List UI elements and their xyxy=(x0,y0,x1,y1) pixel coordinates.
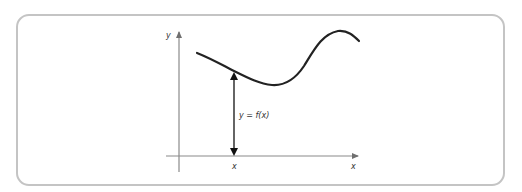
function-graph: y x x y = f(x) xyxy=(0,0,522,192)
function-label: y = f(x) xyxy=(238,111,269,120)
x-axis-label: x xyxy=(350,162,356,171)
function-curve xyxy=(197,31,359,85)
x-tick-label: x xyxy=(231,162,237,171)
arrowhead-down-icon xyxy=(230,148,238,156)
y-axis-label: y xyxy=(165,31,171,40)
